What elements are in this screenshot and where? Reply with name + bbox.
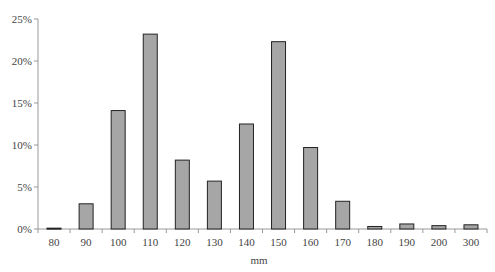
x-tick-label: 80 [49, 236, 61, 248]
bar-130 [207, 181, 221, 229]
x-tick-label: 90 [81, 236, 93, 248]
y-axis: 0%5%10%15%20%25% [12, 13, 38, 235]
y-tick-label: 0% [17, 223, 32, 235]
bar-80 [47, 228, 61, 229]
bar-90 [79, 204, 93, 229]
x-tick-label: 150 [270, 236, 287, 248]
bar-190 [400, 224, 414, 229]
x-tick-label: 140 [238, 236, 255, 248]
y-tick-label: 5% [17, 181, 32, 193]
x-tick-label: 100 [110, 236, 127, 248]
y-tick-label: 15% [12, 97, 32, 109]
bar-150 [272, 42, 286, 229]
bar-200 [432, 226, 446, 229]
x-tick-label: 130 [206, 236, 223, 248]
bar-chart: 0%5%10%15%20%25% 80901001101201301401501… [0, 0, 495, 272]
y-tick-label: 25% [12, 13, 32, 25]
x-tick-label: 190 [399, 236, 416, 248]
bar-160 [304, 148, 318, 229]
bar-140 [239, 124, 253, 229]
x-tick-label: 200 [431, 236, 448, 248]
bar-110 [143, 34, 157, 229]
x-tick-label: 110 [142, 236, 159, 248]
x-tick-label: 160 [302, 236, 319, 248]
x-tick-label: 170 [334, 236, 351, 248]
bar-300 [464, 225, 478, 229]
x-tick-label: 300 [463, 236, 480, 248]
bar-120 [175, 160, 189, 229]
bar-180 [368, 226, 382, 229]
x-tick-label: 180 [367, 236, 384, 248]
bar-170 [336, 201, 350, 229]
bar-100 [111, 111, 125, 229]
bars [47, 34, 478, 229]
x-axis-label: mm [251, 254, 269, 266]
y-tick-label: 20% [12, 55, 32, 67]
x-tick-label: 120 [174, 236, 191, 248]
y-tick-label: 10% [12, 139, 32, 151]
x-axis: 8090100110120130140150160170180190200300 [38, 229, 487, 248]
